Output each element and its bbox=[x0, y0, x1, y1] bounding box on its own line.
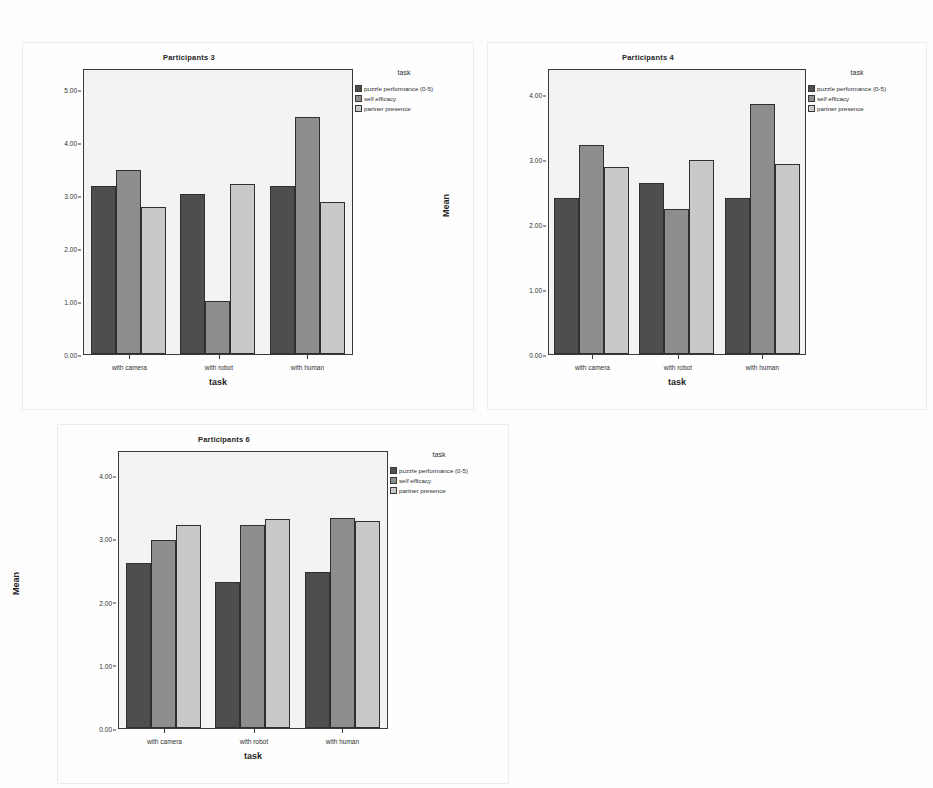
bar[interactable] bbox=[355, 521, 380, 728]
legend-item-label: partner presence bbox=[399, 486, 446, 495]
bar[interactable] bbox=[554, 198, 579, 354]
legend-item-label: puzzle performance (0-5) bbox=[817, 84, 886, 93]
bar[interactable] bbox=[151, 540, 176, 728]
legend-item[interactable]: partner presence bbox=[390, 486, 502, 495]
chart-panel-participants-4: Participants 44.003.002.001.000.00Meanwi… bbox=[487, 42, 927, 410]
plot-region: 4.003.002.001.000.00Meanwith camerawith … bbox=[118, 451, 388, 729]
y-axis-tick-label: 3.00 bbox=[99, 536, 112, 543]
bar-groups bbox=[549, 70, 805, 354]
y-axis-tick-label: 4.00 bbox=[64, 140, 77, 147]
bar[interactable] bbox=[126, 563, 151, 728]
x-axis-tick-label: with human bbox=[291, 355, 324, 371]
y-axis-title: Mean bbox=[441, 194, 451, 217]
bar-groups bbox=[119, 452, 387, 728]
x-axis-ticks: with camerawith robotwith human bbox=[118, 729, 388, 745]
x-axis-title: task bbox=[83, 377, 353, 387]
bar[interactable] bbox=[320, 202, 345, 354]
legend-item-label: self efficacy bbox=[817, 94, 849, 103]
y-axis-tick-label: 0.00 bbox=[64, 352, 77, 359]
bar[interactable] bbox=[116, 170, 141, 354]
chart-title: Participants 3 bbox=[23, 53, 355, 62]
bar[interactable] bbox=[215, 582, 240, 728]
bar[interactable] bbox=[664, 209, 689, 354]
bar[interactable] bbox=[750, 104, 775, 354]
legend: taskpuzzle performance (0-5)self efficac… bbox=[390, 451, 502, 496]
legend-item[interactable]: self efficacy bbox=[355, 94, 467, 103]
legend-swatch-icon bbox=[355, 95, 362, 102]
plot-area bbox=[83, 69, 353, 355]
x-axis-tick-label: with human bbox=[746, 355, 779, 371]
bar-group bbox=[305, 452, 380, 728]
y-axis-tick-label: 2.00 bbox=[64, 246, 77, 253]
y-axis-tick-label: 3.00 bbox=[529, 157, 542, 164]
legend-swatch-icon bbox=[808, 95, 815, 102]
plot-area bbox=[548, 69, 806, 355]
legend-item[interactable]: puzzle performance (0-5) bbox=[390, 466, 502, 475]
legend: taskpuzzle performance (0-5)self efficac… bbox=[355, 69, 467, 114]
plot-region: 4.003.002.001.000.00Meanwith camerawith … bbox=[548, 69, 806, 355]
bar[interactable] bbox=[330, 518, 355, 728]
bar[interactable] bbox=[230, 184, 255, 354]
bar[interactable] bbox=[305, 572, 330, 728]
legend-item[interactable]: self efficacy bbox=[808, 94, 920, 103]
bar-group bbox=[270, 70, 345, 354]
y-axis-tick-label: 2.00 bbox=[529, 222, 542, 229]
bar[interactable] bbox=[176, 525, 201, 728]
x-axis-tick-label: with camera bbox=[147, 729, 182, 745]
legend-item-label: partner presence bbox=[364, 104, 411, 113]
bar[interactable] bbox=[270, 186, 295, 354]
chart-title: Participants 4 bbox=[488, 53, 808, 62]
legend-item-label: self efficacy bbox=[399, 476, 431, 485]
x-axis-ticks: with camerawith robotwith human bbox=[83, 355, 353, 371]
bar-groups bbox=[84, 70, 352, 354]
bar[interactable] bbox=[775, 164, 800, 354]
x-axis-tick-label: with robot bbox=[240, 729, 268, 745]
legend-item-label: puzzle performance (0-5) bbox=[399, 466, 468, 475]
legend-swatch-icon bbox=[390, 487, 397, 494]
bar-group bbox=[91, 70, 166, 354]
x-axis: with camerawith robotwith humantask bbox=[548, 355, 806, 395]
legend-title: task bbox=[390, 451, 502, 458]
bar[interactable] bbox=[240, 525, 265, 728]
x-axis-tick-label: with human bbox=[326, 729, 359, 745]
legend-item[interactable]: partner presence bbox=[808, 104, 920, 113]
y-axis: 4.003.002.001.000.00Mean bbox=[490, 69, 546, 355]
x-axis-tick-label: with robot bbox=[664, 355, 692, 371]
bar[interactable] bbox=[689, 160, 714, 354]
bar[interactable] bbox=[180, 194, 205, 354]
legend-item-label: puzzle performance (0-5) bbox=[364, 84, 433, 93]
legend-item[interactable]: puzzle performance (0-5) bbox=[808, 84, 920, 93]
bar[interactable] bbox=[725, 198, 750, 354]
bar[interactable] bbox=[91, 186, 116, 354]
legend-swatch-icon bbox=[355, 105, 362, 112]
bar[interactable] bbox=[295, 117, 320, 354]
legend-title: task bbox=[355, 69, 467, 76]
y-axis-tick-label: 1.00 bbox=[529, 287, 542, 294]
plot-region: 5.004.003.002.001.000.00Meanwith cameraw… bbox=[83, 69, 353, 355]
bar[interactable] bbox=[639, 183, 664, 354]
bar-group bbox=[554, 70, 629, 354]
bar[interactable] bbox=[579, 145, 604, 354]
bar[interactable] bbox=[205, 301, 230, 354]
y-axis-title: Mean bbox=[11, 572, 21, 595]
bar-group bbox=[215, 452, 290, 728]
x-axis: with camerawith robotwith humantask bbox=[83, 355, 353, 395]
legend-swatch-icon bbox=[390, 467, 397, 474]
plot-area bbox=[118, 451, 388, 729]
legend-swatch-icon bbox=[390, 477, 397, 484]
legend-item[interactable]: puzzle performance (0-5) bbox=[355, 84, 467, 93]
y-axis: 4.003.002.001.000.00Mean bbox=[60, 451, 116, 729]
legend-item[interactable]: self efficacy bbox=[390, 476, 502, 485]
y-axis-tick-label: 4.00 bbox=[99, 473, 112, 480]
y-axis-tick-label: 1.00 bbox=[99, 662, 112, 669]
y-axis-tick-label: 3.00 bbox=[64, 193, 77, 200]
legend-item[interactable]: partner presence bbox=[355, 104, 467, 113]
legend-swatch-icon bbox=[808, 85, 815, 92]
x-axis-tick-label: with robot bbox=[205, 355, 233, 371]
x-axis-ticks: with camerawith robotwith human bbox=[548, 355, 806, 371]
chart-panel-participants-6: Participants 64.003.002.001.000.00Meanwi… bbox=[57, 424, 509, 784]
legend: taskpuzzle performance (0-5)self efficac… bbox=[808, 69, 920, 114]
bar[interactable] bbox=[141, 207, 166, 354]
bar[interactable] bbox=[604, 167, 629, 354]
bar[interactable] bbox=[265, 519, 290, 729]
